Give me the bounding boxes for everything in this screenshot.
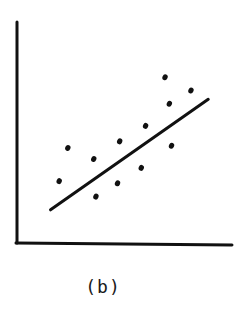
data-point [114,180,121,188]
regression-line [51,99,209,210]
data-point [56,177,63,185]
data-point [187,87,194,95]
data-point [166,100,173,108]
data-point [90,155,97,163]
data-points [56,73,195,200]
data-point [168,142,175,150]
data-point [161,73,168,81]
data-point [116,138,123,146]
data-point [92,193,99,201]
data-point [138,164,145,172]
data-point [142,122,149,130]
fitted-line [51,99,209,210]
scatter-plot [0,0,245,316]
axes [16,22,232,245]
x-axis [16,243,232,245]
figure-caption: (b) [0,276,206,297]
data-point [64,144,71,152]
